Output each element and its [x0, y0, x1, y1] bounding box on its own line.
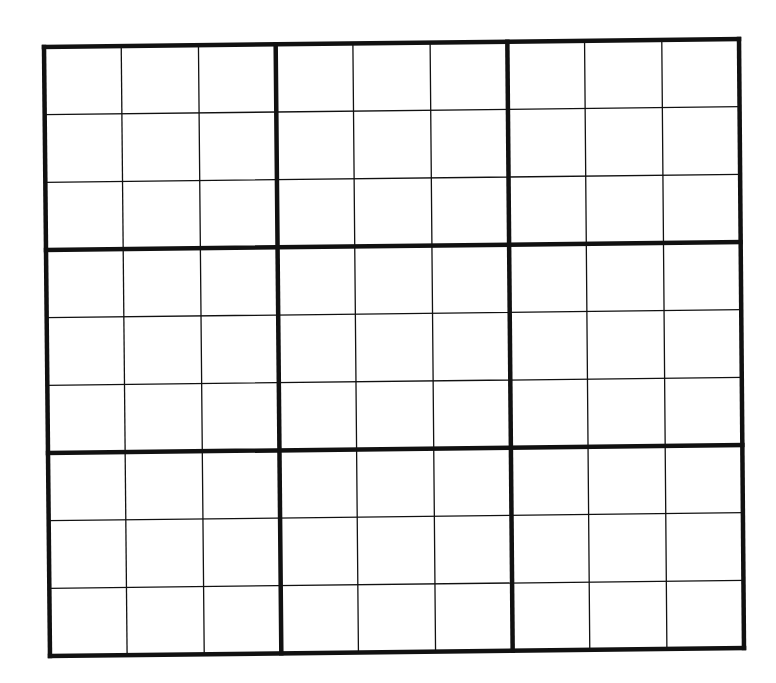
sudoku-cell[interactable]: [511, 447, 589, 516]
sudoku-cell[interactable]: [123, 248, 201, 317]
sudoku-cell[interactable]: [357, 516, 435, 585]
sudoku-cell[interactable]: [125, 451, 203, 520]
sudoku-cell[interactable]: [126, 587, 204, 656]
sudoku-cell[interactable]: [434, 515, 512, 584]
sudoku-cell[interactable]: [586, 243, 664, 312]
sudoku-grid: [0, 0, 776, 683]
sudoku-cell[interactable]: [589, 514, 667, 583]
sudoku-cell[interactable]: [666, 513, 744, 582]
sudoku-cell[interactable]: [279, 449, 357, 518]
sudoku-cell[interactable]: [49, 520, 127, 589]
sudoku-cell[interactable]: [276, 43, 354, 112]
sudoku-cell[interactable]: [49, 587, 127, 656]
sudoku-cell[interactable]: [588, 446, 666, 515]
sudoku-cell[interactable]: [666, 580, 744, 649]
sudoku-cell[interactable]: [278, 246, 356, 315]
sudoku-cell[interactable]: [356, 381, 434, 450]
sudoku-cell[interactable]: [355, 246, 433, 315]
sudoku-cell[interactable]: [431, 177, 509, 246]
sudoku-cell[interactable]: [355, 313, 433, 382]
sudoku-cell[interactable]: [586, 175, 664, 244]
sudoku-cell[interactable]: [589, 581, 667, 650]
sudoku-cell[interactable]: [358, 584, 436, 653]
sudoku-cell[interactable]: [46, 249, 124, 318]
sudoku-cell[interactable]: [585, 108, 663, 177]
sudoku-cell[interactable]: [278, 314, 356, 383]
sudoku-cell[interactable]: [126, 519, 204, 588]
sudoku-cell[interactable]: [200, 180, 278, 249]
sudoku-cell[interactable]: [123, 181, 201, 250]
sudoku-cell[interactable]: [202, 450, 280, 519]
sudoku-cell[interactable]: [662, 107, 740, 176]
sudoku-cell[interactable]: [276, 111, 354, 180]
sudoku-cell[interactable]: [124, 316, 202, 385]
sudoku-cell[interactable]: [509, 244, 587, 313]
sudoku-cell[interactable]: [665, 445, 743, 514]
sudoku-cell[interactable]: [508, 108, 586, 177]
sudoku-cell[interactable]: [511, 514, 589, 583]
sudoku-cell[interactable]: [122, 113, 200, 182]
sudoku-cell[interactable]: [354, 178, 432, 247]
sudoku-cell[interactable]: [45, 114, 123, 183]
sudoku-cell[interactable]: [201, 315, 279, 384]
sudoku-cell[interactable]: [203, 518, 281, 587]
sudoku-cell[interactable]: [200, 247, 278, 316]
sudoku-cell[interactable]: [48, 452, 126, 521]
sudoku-cell[interactable]: [277, 179, 355, 248]
sudoku-cell[interactable]: [204, 586, 282, 655]
sudoku-cell[interactable]: [280, 517, 358, 586]
sudoku-cell[interactable]: [663, 242, 741, 311]
sudoku-cell[interactable]: [430, 42, 508, 111]
sudoku-cell[interactable]: [434, 448, 512, 517]
sudoku-cell[interactable]: [512, 582, 590, 651]
sudoku-cell[interactable]: [663, 174, 741, 243]
sudoku-cell[interactable]: [664, 310, 742, 379]
sudoku-cell[interactable]: [507, 41, 585, 110]
sudoku-cell[interactable]: [510, 379, 588, 448]
sudoku-cell[interactable]: [202, 383, 280, 452]
sudoku-cell[interactable]: [662, 39, 740, 108]
sudoku-cell[interactable]: [354, 110, 432, 179]
sudoku-cell[interactable]: [435, 583, 513, 652]
sudoku-cell[interactable]: [587, 378, 665, 447]
sudoku-cell[interactable]: [44, 46, 122, 115]
sudoku-cell[interactable]: [279, 382, 357, 451]
sudoku-cell[interactable]: [281, 585, 359, 654]
sudoku-cell[interactable]: [47, 384, 125, 453]
sudoku-cell[interactable]: [433, 312, 511, 381]
sudoku-cell[interactable]: [587, 311, 665, 380]
sudoku-cell[interactable]: [665, 377, 743, 446]
sudoku-cell[interactable]: [432, 245, 510, 314]
sudoku-cell[interactable]: [45, 181, 123, 250]
sudoku-cell[interactable]: [47, 317, 125, 386]
sudoku-cell[interactable]: [199, 112, 277, 181]
cells-layer: [44, 39, 744, 656]
sudoku-cell[interactable]: [585, 40, 663, 109]
sudoku-cell[interactable]: [124, 384, 202, 453]
sudoku-cell[interactable]: [121, 45, 199, 114]
sudoku-cell[interactable]: [433, 380, 511, 449]
sudoku-cell[interactable]: [357, 449, 435, 518]
sudoku-cell[interactable]: [353, 43, 431, 112]
sudoku-cell[interactable]: [198, 44, 276, 113]
sudoku-cell[interactable]: [510, 311, 588, 380]
sudoku-cell[interactable]: [431, 109, 509, 178]
sudoku-cell[interactable]: [509, 176, 587, 245]
